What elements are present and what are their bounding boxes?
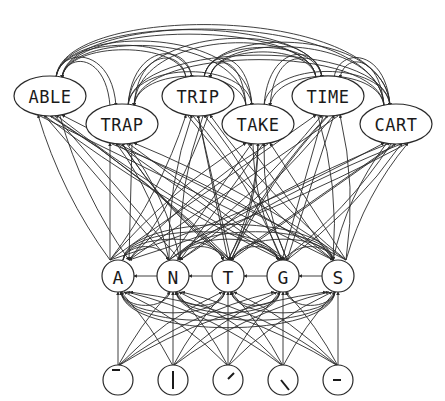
letter-node-t: T <box>212 260 244 292</box>
letter-node-s: S <box>322 260 354 292</box>
connection-edge <box>287 115 334 260</box>
letter-node-a: A <box>102 260 134 292</box>
letter-label: G <box>278 267 289 288</box>
word-label: TRIP <box>177 87 220 107</box>
word-label: TRAP <box>101 115 144 135</box>
word-node-trip: TRIP <box>162 76 234 116</box>
word-node-time: TIME <box>292 76 364 116</box>
word-node-cart: CART <box>360 104 432 144</box>
letter-label: N <box>168 267 179 288</box>
letter-label: T <box>223 267 234 288</box>
letter-node-n: N <box>157 260 189 292</box>
word-label: TIME <box>307 87 350 107</box>
word-label: ABLE <box>29 87 72 107</box>
feature-node-f-diagonal-up <box>213 365 243 395</box>
word-node-able: ABLE <box>14 76 86 116</box>
word-node-trap: TRAP <box>86 104 158 144</box>
connection-edges <box>38 25 408 366</box>
letter-label: A <box>113 267 124 288</box>
connection-edge <box>264 143 287 260</box>
connection-edge <box>40 116 333 260</box>
feature-node-f-top-bar <box>103 365 133 395</box>
feature-circle <box>213 365 243 395</box>
feature-circle <box>268 365 298 395</box>
feature-node-f-middle-bar <box>323 365 353 395</box>
connection-edge <box>129 144 406 260</box>
word-label: TAKE <box>237 115 280 135</box>
letter-label: S <box>333 267 344 288</box>
feature-node-f-diagonal-down <box>268 365 298 395</box>
feature-node-f-vertical-bar <box>158 365 188 395</box>
word-label: CART <box>375 115 418 135</box>
letter-node-g: G <box>267 260 299 292</box>
connection-edge <box>346 143 408 260</box>
feature-layer <box>103 365 353 395</box>
word-node-take: TAKE <box>222 104 294 144</box>
interactive-activation-network-diagram: ABLETRAPTRIPTAKETIMECART ANTGS <box>0 0 445 401</box>
connection-edge <box>340 115 350 260</box>
